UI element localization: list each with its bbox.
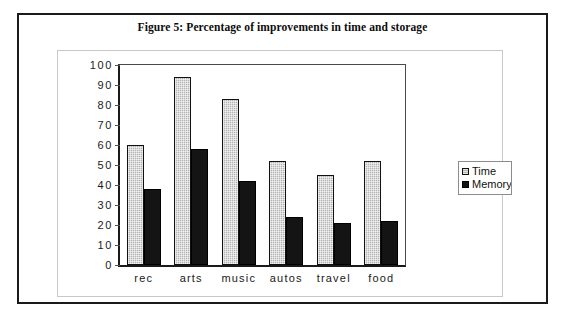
y-axis-tick-mark: [115, 185, 120, 186]
y-axis-tick-label: 50: [98, 159, 113, 171]
bar-time-autos[interactable]: [269, 161, 286, 265]
bar-group: music: [222, 65, 256, 265]
y-axis-tick-mark: [115, 85, 120, 86]
y-axis-tick-label: 40: [98, 179, 113, 191]
bar-group: rec: [127, 65, 161, 265]
legend-item-memory[interactable]: Memory: [462, 178, 509, 191]
chart-container: 1009080706050403020100recartsmusicautost…: [57, 50, 503, 297]
bar-time-arts[interactable]: [174, 77, 191, 265]
legend-item-time[interactable]: Time: [462, 165, 509, 178]
y-axis-tick-label: 60: [98, 139, 113, 151]
y-axis-tick-mark: [115, 225, 120, 226]
y-axis-tick-mark: [115, 145, 120, 146]
legend-label: Memory: [472, 178, 512, 191]
x-axis-label-food: food: [357, 272, 405, 284]
figure-frame: Figure 5: Percentage of improvements in …: [17, 13, 548, 304]
x-axis-label-rec: rec: [120, 272, 168, 284]
y-axis-tick-mark: [115, 205, 120, 206]
y-axis-tick-label: 80: [98, 99, 113, 111]
y-axis-tick-label: 100: [90, 59, 113, 71]
bar-group: arts: [174, 65, 208, 265]
bar-memory-travel[interactable]: [334, 223, 351, 265]
y-axis-tick-mark: [115, 245, 120, 246]
y-axis-tick-label: 30: [98, 199, 113, 211]
y-axis-tick-label: 90: [98, 79, 113, 91]
bar-time-music[interactable]: [222, 99, 239, 265]
bar-memory-music[interactable]: [239, 181, 256, 265]
y-axis-tick-label: 10: [98, 239, 113, 251]
chart-legend: TimeMemory: [458, 161, 512, 195]
x-axis-label-autos: autos: [262, 272, 310, 284]
bar-time-rec[interactable]: [127, 145, 144, 265]
y-axis-tick-mark: [115, 165, 120, 166]
bar-memory-food[interactable]: [381, 221, 398, 265]
y-axis-tick-mark: [115, 65, 120, 66]
legend-swatch-icon: [462, 168, 469, 175]
y-axis-tick-label: 70: [98, 119, 113, 131]
bar-memory-rec[interactable]: [144, 189, 161, 265]
bar-memory-autos[interactable]: [286, 217, 303, 265]
y-axis-tick-mark: [115, 125, 120, 126]
bar-group: travel: [317, 65, 351, 265]
x-axis-label-music: music: [215, 272, 263, 284]
y-axis-tick-mark: [115, 265, 120, 266]
y-axis-tick-label: 20: [98, 219, 113, 231]
legend-label: Time: [472, 165, 496, 178]
bar-group: food: [364, 65, 398, 265]
bar-memory-arts[interactable]: [191, 149, 208, 265]
figure-caption: Figure 5: Percentage of improvements in …: [19, 21, 546, 33]
x-axis-label-travel: travel: [310, 272, 358, 284]
bar-time-travel[interactable]: [317, 175, 334, 265]
bar-time-food[interactable]: [364, 161, 381, 265]
y-axis-tick-label: 0: [105, 259, 113, 271]
x-axis-label-arts: arts: [167, 272, 215, 284]
legend-swatch-icon: [462, 181, 469, 188]
plot-area: 1009080706050403020100recartsmusicautost…: [118, 64, 406, 267]
y-axis-tick-mark: [115, 105, 120, 106]
bar-group: autos: [269, 65, 303, 265]
